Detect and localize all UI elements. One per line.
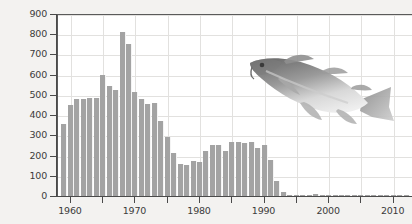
y-tick-900 [50, 14, 57, 15]
y-tick-label-600: 600 [7, 69, 47, 80]
bar-1986 [236, 142, 242, 196]
bar-1976 [171, 153, 177, 196]
bar-1973 [152, 103, 158, 196]
bar-1981 [203, 151, 209, 197]
y-tick-800 [50, 34, 57, 35]
bar-1961 [74, 99, 80, 196]
y-tick-label-700: 700 [7, 48, 47, 59]
bar-1965 [100, 75, 106, 196]
plot-area [57, 14, 412, 196]
bar-1987 [242, 143, 248, 196]
bar-1985 [229, 142, 235, 196]
x-tick-1960 [70, 196, 71, 203]
bar-1983 [216, 145, 222, 196]
chart-figure: Yield (thousands of metric tons) [0, 0, 412, 224]
y-tick-600 [50, 75, 57, 76]
y-tick-700 [50, 54, 57, 55]
x-axis-line [57, 196, 412, 197]
bar-1962 [81, 99, 87, 196]
bar-1969 [126, 44, 132, 196]
x-tick-label-1970: 1970 [112, 205, 156, 216]
x-tick-1975 [167, 196, 168, 203]
y-tick-500 [50, 95, 57, 96]
x-tick-1995 [296, 196, 297, 203]
bar-1963 [87, 98, 93, 196]
bar-1964 [94, 98, 100, 196]
x-tick-label-1960: 1960 [48, 205, 92, 216]
x-tick-label-1980: 1980 [177, 205, 221, 216]
y-tick-label-500: 500 [7, 89, 47, 100]
bar-1966 [107, 86, 113, 196]
y-tick-label-0: 0 [7, 190, 47, 201]
bar-1960 [68, 105, 74, 196]
y-tick-label-800: 800 [7, 28, 47, 39]
bar-1972 [145, 104, 151, 196]
bar-1988 [249, 142, 255, 196]
bar-1968 [120, 32, 126, 196]
bar-1974 [158, 121, 164, 196]
bar-1992 [274, 181, 280, 196]
x-tick-label-1990: 1990 [242, 205, 286, 216]
x-tick-2005 [360, 196, 361, 203]
bar-1959 [61, 124, 67, 196]
y-tick-label-100: 100 [7, 170, 47, 181]
y-tick-label-400: 400 [7, 109, 47, 120]
bar-1967 [113, 90, 119, 196]
bar-1975 [165, 137, 171, 196]
bar-1970 [132, 92, 138, 196]
y-tick-0 [50, 196, 57, 197]
bar-1990 [262, 145, 268, 196]
y-tick-label-900: 900 [7, 8, 47, 19]
y-tick-label-200: 200 [7, 150, 47, 161]
y-axis-line [56, 14, 57, 196]
bar-1982 [210, 145, 216, 196]
x-tick-label-2010: 2010 [371, 205, 412, 216]
bar-1977 [178, 164, 184, 196]
y-tick-300 [50, 135, 57, 136]
x-tick-1965 [102, 196, 103, 203]
bar-1980 [197, 162, 203, 196]
bar-1979 [191, 161, 197, 196]
x-tick-1985 [231, 196, 232, 203]
x-tick-2010 [393, 196, 394, 203]
y-tick-200 [50, 156, 57, 157]
x-tick-1970 [134, 196, 135, 203]
y-tick-400 [50, 115, 57, 116]
bar-1984 [223, 151, 229, 197]
bar-1978 [184, 165, 190, 196]
bar-1989 [255, 148, 261, 196]
bar-series-yield [58, 15, 412, 196]
x-tick-1990 [264, 196, 265, 203]
x-tick-2000 [328, 196, 329, 203]
bar-1991 [268, 160, 274, 196]
x-tick-1980 [199, 196, 200, 203]
y-tick-100 [50, 176, 57, 177]
y-tick-label-300: 300 [7, 129, 47, 140]
bar-1971 [139, 99, 145, 196]
x-tick-label-2000: 2000 [306, 205, 350, 216]
